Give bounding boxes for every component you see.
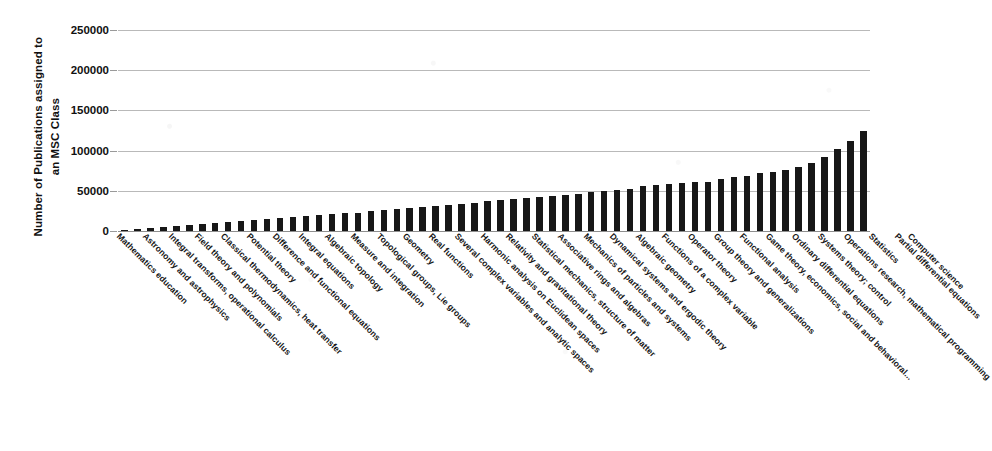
x-axis-label: Harmonic analysis on Euclidean spaces xyxy=(478,231,602,355)
bar xyxy=(692,182,698,231)
bar xyxy=(342,213,348,231)
bar xyxy=(212,223,218,231)
bar xyxy=(549,196,555,231)
bar xyxy=(277,218,283,231)
y-tick-label: 0 xyxy=(103,225,109,237)
bar xyxy=(821,157,827,231)
y-tick-label: 250000 xyxy=(71,24,109,36)
bar xyxy=(614,190,620,231)
bar xyxy=(666,184,672,231)
bar xyxy=(264,219,270,231)
bar xyxy=(744,176,750,231)
bar xyxy=(484,201,490,231)
bar xyxy=(770,172,776,231)
bar xyxy=(679,183,685,231)
bars-group xyxy=(118,30,870,231)
bar xyxy=(381,210,387,231)
x-axis-label-text: Real functions xyxy=(427,231,476,280)
bar xyxy=(782,170,788,231)
bar xyxy=(458,204,464,231)
y-tick-mark-100000 xyxy=(110,151,117,152)
bar xyxy=(588,192,594,231)
bar xyxy=(406,208,412,231)
y-tick-mark-200000 xyxy=(110,70,117,71)
bar xyxy=(497,200,503,231)
bar xyxy=(795,167,801,231)
bar xyxy=(251,220,257,231)
x-axis-label: Topological groups, Lie groups xyxy=(375,231,473,329)
x-axis-label: Real functions xyxy=(427,231,476,280)
bar xyxy=(860,131,866,232)
bar xyxy=(834,149,840,231)
bar xyxy=(316,215,322,231)
x-axis-labels-group: Mathematics educationAstronomy and astro… xyxy=(118,231,870,446)
bar xyxy=(355,213,361,231)
bar xyxy=(432,206,438,231)
bar xyxy=(562,195,568,231)
bar xyxy=(419,207,425,231)
bar xyxy=(368,211,374,231)
bar xyxy=(290,217,296,231)
y-tick-mark-50000 xyxy=(110,191,117,192)
plot-area: 050000100000150000200000250000 xyxy=(118,30,870,231)
bar xyxy=(510,199,516,231)
bar xyxy=(199,224,205,231)
x-axis-label-text: Partial differential equations xyxy=(893,231,983,321)
bar xyxy=(238,221,244,231)
bar xyxy=(601,191,607,231)
bar xyxy=(718,179,724,231)
x-axis-label-text: Topological groups, Lie groups xyxy=(375,231,473,329)
y-tick-label: 100000 xyxy=(71,145,109,157)
bar xyxy=(394,209,400,231)
y-tick-label: 50000 xyxy=(77,185,109,197)
bar xyxy=(471,203,477,231)
bar xyxy=(627,189,633,231)
y-tick-mark-150000 xyxy=(110,110,117,111)
bar xyxy=(575,194,581,231)
y-tick-mark-0 xyxy=(110,231,117,232)
bar xyxy=(445,205,451,231)
bar xyxy=(640,186,646,231)
bar xyxy=(731,177,737,231)
bar xyxy=(757,173,763,231)
bar xyxy=(847,141,853,231)
y-tick-mark-250000 xyxy=(110,30,117,31)
bar xyxy=(329,214,335,231)
bar xyxy=(536,197,542,231)
y-tick-label: 200000 xyxy=(71,64,109,76)
bar xyxy=(225,222,231,231)
y-axis-title: Number of Publications assigned to an MS… xyxy=(30,32,63,242)
x-axis-label: Partial differential equations xyxy=(893,231,983,321)
bar xyxy=(523,198,529,231)
bar xyxy=(653,185,659,231)
bar xyxy=(808,163,814,231)
bar xyxy=(705,182,711,231)
bar xyxy=(303,216,309,231)
y-tick-label: 150000 xyxy=(71,104,109,116)
x-axis-label-text: Harmonic analysis on Euclidean spaces xyxy=(478,231,602,355)
